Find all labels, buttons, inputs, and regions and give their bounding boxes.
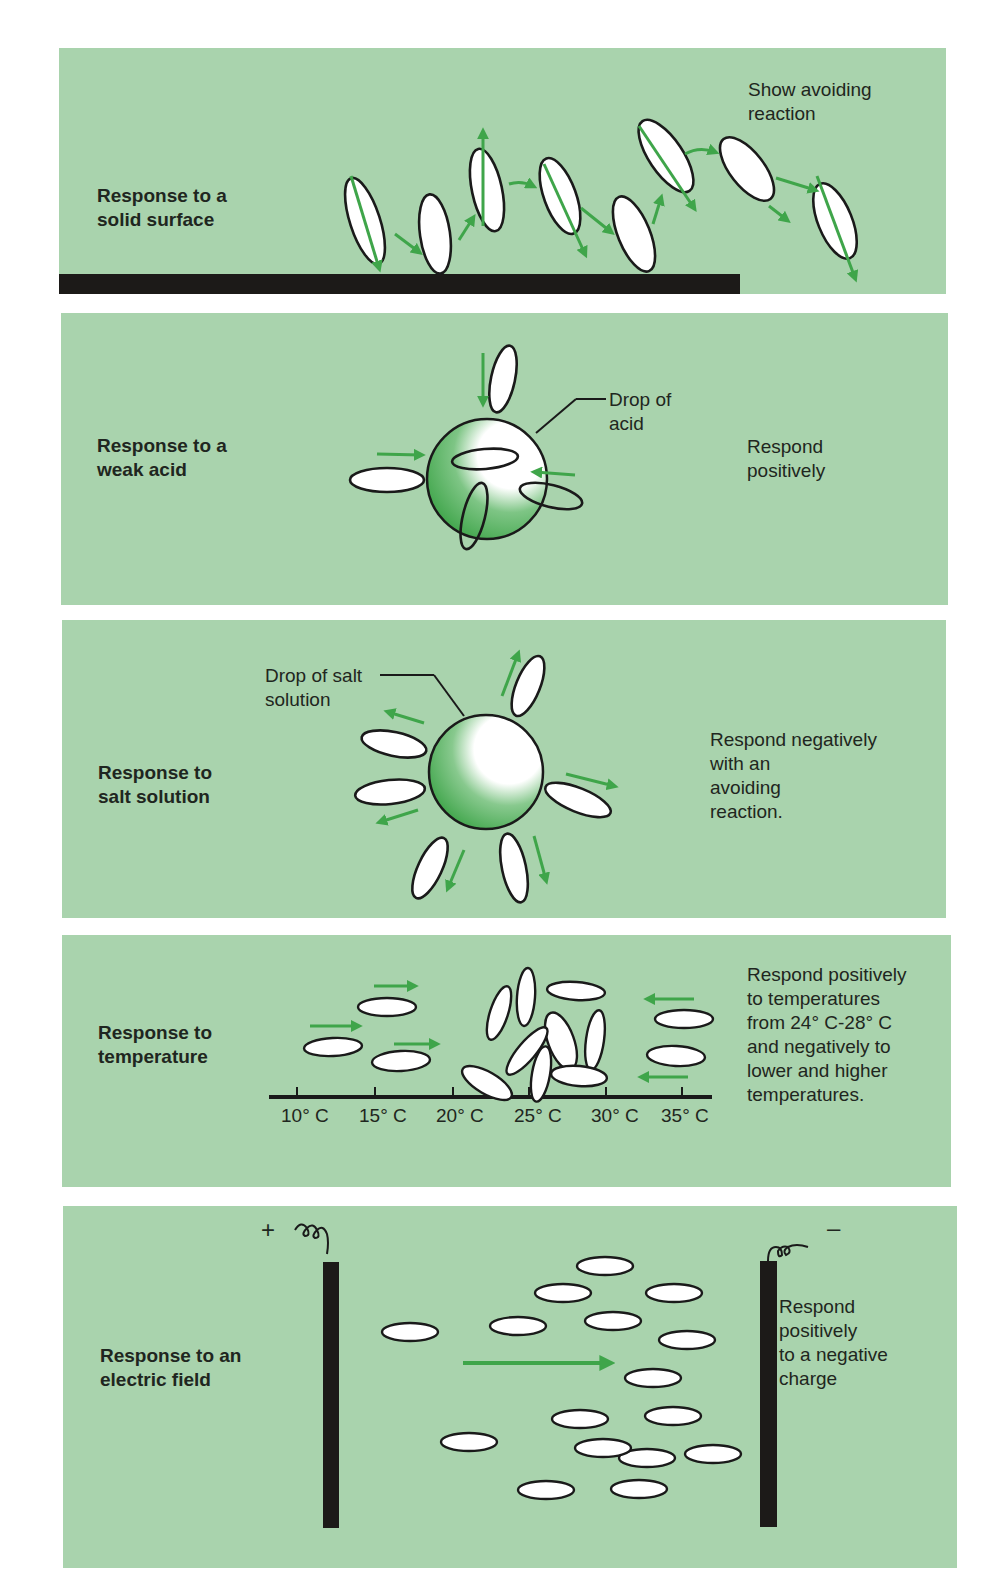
- negative-sign: –: [827, 1216, 840, 1240]
- panel-description: Respond positively to temperatures from …: [747, 963, 906, 1107]
- callout-drop-of-acid: Drop of acid: [609, 388, 671, 436]
- positive-sign: +: [261, 1218, 275, 1242]
- panel-label: Response to a solid surface: [97, 184, 227, 232]
- axis-tick-20c: 20° C: [436, 1105, 484, 1127]
- panel-electric-field: + – Response to an electric field Respon…: [63, 1206, 957, 1568]
- acid-drop: [427, 419, 547, 539]
- axis-tick-10c: 10° C: [281, 1105, 329, 1127]
- panel-label: Response to salt solution: [98, 761, 212, 809]
- panel-description: Respond positively: [747, 435, 825, 483]
- positive-wire: [295, 1224, 328, 1254]
- solid-surface-bar: [59, 274, 740, 294]
- callout-drop-of-salt-solution: Drop of salt solution: [265, 664, 362, 712]
- axis-tick-25c: 25° C: [514, 1105, 562, 1127]
- panel-solid-surface: Response to a solid surface Show avoidin…: [59, 48, 946, 294]
- panel-salt-solution: Response to salt solution Drop of salt s…: [62, 620, 946, 918]
- callout-leader: [536, 399, 576, 433]
- negative-electrode: [760, 1261, 777, 1527]
- panel-description: Respond negatively with an avoiding reac…: [710, 728, 877, 824]
- axis-tick-15c: 15° C: [359, 1105, 407, 1127]
- positive-electrode: [323, 1262, 339, 1528]
- panel-weak-acid: Response to a weak acid Drop of acid Res…: [61, 313, 948, 605]
- panel-label: Response to an electric field: [100, 1344, 241, 1392]
- salt-drop: [429, 715, 543, 829]
- negative-wire: [768, 1245, 808, 1261]
- panel-description: Show avoiding reaction: [748, 78, 872, 126]
- axis-tick-35c: 35° C: [661, 1105, 709, 1127]
- panel-description: Respond positively to a negative charge: [779, 1295, 888, 1391]
- panel-temperature: 10° C 15° C 20° C 25° C 30° C 35° C Resp…: [62, 935, 951, 1187]
- panel-label: Response to a weak acid: [97, 434, 227, 482]
- axis-tick-30c: 30° C: [591, 1105, 639, 1127]
- panel-label: Response to temperature: [98, 1021, 212, 1069]
